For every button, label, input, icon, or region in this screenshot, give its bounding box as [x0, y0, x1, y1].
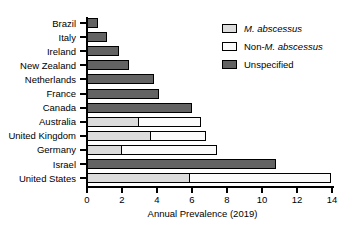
x-tick-label: 0: [75, 194, 99, 205]
x-tick-label: 2: [110, 194, 134, 205]
chart-legend: M. abscessusNon-M. abscessusUnspecified: [222, 20, 350, 74]
y-tick: [80, 177, 86, 179]
y-tick: [80, 149, 86, 151]
y-tick-label: United Kingdom: [8, 131, 76, 141]
x-tick: [261, 188, 263, 193]
bar-italy: [87, 32, 106, 42]
bar-segment-non-m-abscessus: [150, 131, 206, 141]
x-tick-label: 8: [215, 194, 239, 205]
x-axis-title-text: Annual Prevalence (2019): [96, 208, 258, 219]
y-tick: [80, 22, 86, 24]
y-tick: [80, 78, 86, 80]
y-tick: [80, 93, 86, 95]
y-tick-label: Canada: [43, 103, 76, 113]
y-tick: [80, 36, 86, 38]
bar-united-states: [87, 173, 329, 183]
legend-item-non-m-abscessus[interactable]: Non-M. abscessus: [222, 38, 350, 54]
bar-brazil: [87, 18, 97, 28]
bar-israel: [87, 159, 275, 169]
y-tick-label: Italy: [59, 33, 76, 43]
y-tick-label: France: [46, 89, 76, 99]
bar-segment-m-abscessus: [87, 117, 140, 127]
x-tick-label: 14: [320, 194, 344, 205]
x-tick: [191, 188, 193, 193]
x-tick: [121, 188, 123, 193]
bar-segment-m-abscessus: [87, 145, 122, 155]
y-tick-label: Ireland: [47, 47, 76, 57]
bar-segment-m-abscessus: [87, 131, 152, 141]
x-axis-title: Annual Prevalence (2019): [0, 208, 353, 219]
bar-segment-unspecified: [87, 60, 129, 70]
legend-label-m-abscessus: M. abscessus: [244, 23, 302, 34]
x-tick: [296, 188, 298, 193]
bar-netherlands: [87, 74, 152, 84]
bar-segment-non-m-abscessus: [138, 117, 201, 127]
bar-segment-unspecified: [87, 46, 119, 56]
bar-segment-non-m-abscessus: [189, 173, 331, 183]
legend-swatch-m-abscessus: [222, 24, 237, 33]
y-tick: [80, 135, 86, 137]
x-tick-label: 10: [250, 194, 274, 205]
x-tick: [331, 188, 333, 193]
y-tick-label: Brazil: [52, 19, 76, 29]
legend-item-unspecified[interactable]: Unspecified: [222, 56, 350, 72]
bar-segment-unspecified: [87, 89, 159, 99]
x-tick-label: 12: [285, 194, 309, 205]
y-tick-label: Israel: [53, 160, 76, 170]
y-tick: [80, 50, 86, 52]
bar-ireland: [87, 46, 117, 56]
bar-segment-unspecified: [87, 103, 192, 113]
y-tick: [80, 107, 86, 109]
prevalence-bar-chart: BrazilItalyIrelandNew ZealandNetherlands…: [0, 0, 353, 230]
x-tick: [86, 188, 88, 193]
legend-label-unspecified: Unspecified: [244, 59, 294, 70]
bar-segment-unspecified: [87, 159, 276, 169]
bar-france: [87, 89, 157, 99]
x-tick-label: 6: [180, 194, 204, 205]
bar-germany: [87, 145, 216, 155]
y-tick-label: Germany: [37, 145, 76, 155]
x-tick-label: 4: [145, 194, 169, 205]
legend-swatch-unspecified: [222, 60, 237, 69]
bar-canada: [87, 103, 191, 113]
bar-united-kingdom: [87, 131, 205, 141]
bar-segment-unspecified: [87, 74, 154, 84]
x-tick: [156, 188, 158, 193]
bar-segment-non-m-abscessus: [121, 145, 217, 155]
y-tick-label: New Zealand: [20, 61, 76, 71]
legend-swatch-non-m-abscessus: [222, 42, 237, 51]
y-tick: [80, 163, 86, 165]
y-tick: [80, 64, 86, 66]
bar-new-zealand: [87, 60, 128, 70]
y-tick: [80, 121, 86, 123]
y-tick-label: Australia: [39, 117, 76, 127]
legend-item-m-abscessus[interactable]: M. abscessus: [222, 20, 350, 36]
bar-segment-unspecified: [87, 32, 107, 42]
legend-label-non-m-abscessus: Non-M. abscessus: [244, 41, 323, 52]
y-tick-label: United States: [19, 174, 76, 184]
x-tick: [226, 188, 228, 193]
y-tick-label: Netherlands: [25, 75, 76, 85]
bar-segment-m-abscessus: [87, 173, 190, 183]
bar-segment-unspecified: [87, 18, 98, 28]
bar-australia: [87, 117, 200, 127]
